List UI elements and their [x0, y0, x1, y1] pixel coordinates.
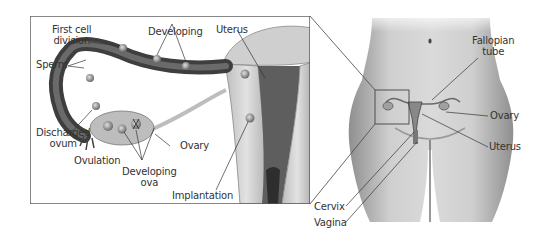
label-ovary-body: Ovary: [490, 110, 519, 121]
label-ovary-inset: Ovary: [180, 140, 209, 151]
label-first-cell-division: First cell division: [52, 24, 91, 46]
label-line: Fallopian: [472, 35, 514, 46]
label-line: Discharged: [36, 127, 90, 138]
label-discharged-ovum: Discharged ovum: [36, 127, 90, 149]
reproductive-diagram: First cell division Developing Uterus Sp…: [0, 0, 547, 242]
label-uterus-body: Uterus: [489, 141, 521, 152]
label-developing-ova: Developing ova: [122, 166, 177, 188]
label-cervix: Cervix: [314, 201, 345, 212]
label-vagina: Vagina: [314, 217, 347, 228]
label-ovulation: Ovulation: [74, 155, 120, 166]
label-line: ova: [122, 177, 177, 188]
label-implantation: Implantation: [172, 190, 233, 201]
label-line: First cell: [52, 24, 91, 35]
label-line: division: [52, 35, 91, 46]
label-fallopian-tube: Fallopian tube: [472, 35, 514, 57]
label-line: Developing: [122, 166, 177, 177]
label-developing: Developing: [148, 26, 203, 37]
label-line: tube: [472, 46, 514, 57]
label-uterus-inset: Uterus: [216, 24, 248, 35]
label-line: ovum: [36, 138, 90, 149]
label-sperm: Sperm: [36, 59, 68, 70]
